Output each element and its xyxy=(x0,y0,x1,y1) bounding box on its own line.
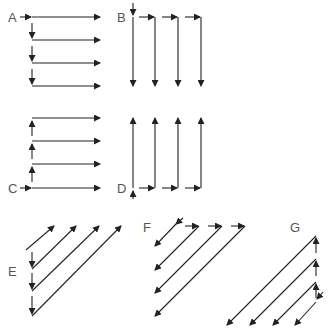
arrow-icon xyxy=(317,292,323,299)
label-a: A xyxy=(8,10,17,25)
label-d: D xyxy=(117,181,126,196)
arrow-icon xyxy=(155,226,245,316)
label-f: F xyxy=(143,220,151,235)
arrow-icon xyxy=(32,226,76,269)
label-c: C xyxy=(8,181,17,196)
pattern-d-column-up-right xyxy=(133,118,201,199)
pattern-c-row-up xyxy=(20,118,100,188)
arrow-icon xyxy=(273,282,316,325)
pattern-a-row-down xyxy=(20,17,100,86)
pattern-g-diagonal-down-left-up xyxy=(227,236,323,325)
label-e: E xyxy=(8,264,17,279)
pattern-f-diagonal-down-left xyxy=(155,218,245,316)
arrow-icon xyxy=(155,226,199,270)
arrow-icon xyxy=(295,302,316,325)
arrow-icon xyxy=(176,218,183,224)
scan-patterns-diagram: ABCDEFG xyxy=(0,0,333,335)
arrow-icon xyxy=(26,226,54,250)
label-g: G xyxy=(290,220,300,235)
pattern-b-column-right xyxy=(133,3,201,86)
pattern-e-diagonal-up-right xyxy=(26,226,121,316)
arrow-icon xyxy=(227,236,316,325)
pattern-labels: ABCDEFG xyxy=(8,10,300,279)
label-b: B xyxy=(117,10,126,25)
arrow-icon xyxy=(32,226,121,316)
arrow-icon xyxy=(155,224,176,246)
